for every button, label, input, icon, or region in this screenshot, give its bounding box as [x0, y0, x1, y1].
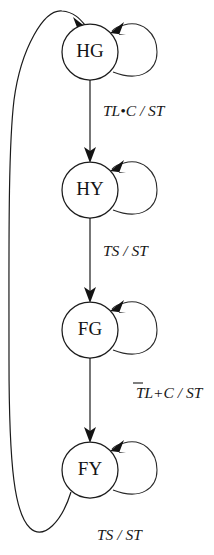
state-hg-label: HG [76, 40, 104, 61]
transition-hy-to-fg [84, 218, 96, 303]
transition-hg-to-hy-label-group: TL•C / ST [103, 102, 166, 119]
self-loop-fg-arrowhead [110, 300, 126, 313]
state-fg[interactable]: FG [62, 302, 118, 358]
state-fg-label: FG [78, 318, 103, 339]
transition-hg-to-hy [84, 80, 96, 163]
self-loop-fy-arrowhead [110, 440, 126, 453]
label-part-tl-plus: TL+ [136, 384, 164, 401]
fsm-canvas: HG TL•C / ST HY TS / ST [0, 0, 214, 555]
label-part-slash-st: / ST [174, 384, 204, 401]
transition-fg-to-fy-label-group: TL+C / ST [101, 383, 214, 401]
self-loop-hg-arrowhead [110, 22, 126, 35]
state-diagram: HG TL•C / ST HY TS / ST [0, 0, 214, 555]
transition-fg-to-fy [84, 358, 96, 443]
state-hy-label: HY [76, 178, 104, 199]
transition-hg-to-hy-label: TL•C / ST [103, 102, 166, 119]
state-hy[interactable]: HY [62, 162, 118, 218]
state-hg[interactable]: HG [62, 24, 118, 80]
transition-fg-to-fy-label: TL+C / ST [101, 384, 214, 401]
transition-hy-to-fg-label: TS / ST [103, 242, 149, 259]
state-fy[interactable]: FY [62, 442, 118, 498]
label-part-c-bar: C [164, 384, 175, 401]
state-fy-label: FY [78, 458, 103, 479]
self-loop-hy-arrowhead [110, 160, 126, 173]
transition-fy-to-hg-label: TS / ST [97, 526, 143, 543]
